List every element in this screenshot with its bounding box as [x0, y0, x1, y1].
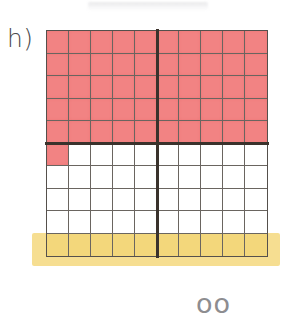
grid-cell-r6-c2 [69, 144, 91, 167]
grid-cell-r5-c10 [245, 121, 267, 144]
grid-cell-r6-c3 [91, 144, 113, 167]
grid-cell-r8-c9 [223, 189, 245, 212]
grid-cell-r10-c8 [201, 234, 223, 257]
grid-cell-r1-c7 [179, 31, 201, 54]
grid-cell-r8-c7 [179, 189, 201, 212]
grid-cell-r7-c5 [135, 166, 157, 189]
clipped-bottom-text: oo [196, 290, 231, 317]
grid-cell-r5-c6 [157, 121, 179, 144]
grid-cell-r6-c4 [113, 144, 135, 167]
grid-cell-r6-c1 [47, 144, 69, 167]
grid-cell-r2-c3 [91, 54, 113, 77]
grid-cell-r3-c9 [223, 76, 245, 99]
grid-cell-r4-c3 [91, 99, 113, 122]
grid-cell-r7-c9 [223, 166, 245, 189]
grid-cell-r2-c4 [113, 54, 135, 77]
grid-cell-r7-c10 [245, 166, 267, 189]
grid-cell-r10-c6 [157, 234, 179, 257]
grid-cell-r6-c5 [135, 144, 157, 167]
grid-cell-r2-c10 [245, 54, 267, 77]
grid-cell-r6-c9 [223, 144, 245, 167]
grid-cell-r3-c10 [245, 76, 267, 99]
grid-cell-r1-c8 [201, 31, 223, 54]
grid-cell-r4-c2 [69, 99, 91, 122]
grid-cell-r7-c3 [91, 166, 113, 189]
grid-cell-r4-c6 [157, 99, 179, 122]
grid-cell-r5-c9 [223, 121, 245, 144]
grid-cell-r10-c5 [135, 234, 157, 257]
grid-cell-r4-c4 [113, 99, 135, 122]
grid-cell-r3-c1 [47, 76, 69, 99]
grid-cell-r10-c2 [69, 234, 91, 257]
grid-cell-r1-c1 [47, 31, 69, 54]
grid-cell-r7-c6 [157, 166, 179, 189]
grid-cell-r1-c2 [69, 31, 91, 54]
grid-cell-r5-c2 [69, 121, 91, 144]
grid-cell-r7-c2 [69, 166, 91, 189]
grid-cell-r2-c7 [179, 54, 201, 77]
grid-cell-r9-c8 [201, 211, 223, 234]
grid-cell-r6-c7 [179, 144, 201, 167]
grid-cell-r7-c7 [179, 166, 201, 189]
grid-cell-r9-c1 [47, 211, 69, 234]
grid-cell-r9-c10 [245, 211, 267, 234]
grid-cell-r2-c6 [157, 54, 179, 77]
grid-cell-r3-c8 [201, 76, 223, 99]
grid-cell-r1-c10 [245, 31, 267, 54]
grid-cell-r9-c5 [135, 211, 157, 234]
grid-cell-r9-c7 [179, 211, 201, 234]
grid-cell-r2-c1 [47, 54, 69, 77]
grid-cell-r1-c5 [135, 31, 157, 54]
grid-cell-r8-c5 [135, 189, 157, 212]
grid-cell-r8-c10 [245, 189, 267, 212]
page-title: h) [7, 26, 34, 51]
grid-cell-r8-c4 [113, 189, 135, 212]
grid-cell-r4-c5 [135, 99, 157, 122]
grid-cell-r4-c1 [47, 99, 69, 122]
grid-cell-r4-c7 [179, 99, 201, 122]
grid-cell-r9-c4 [113, 211, 135, 234]
grid-cell-r5-c4 [113, 121, 135, 144]
grid-cell-r5-c5 [135, 121, 157, 144]
grid-cell-r4-c10 [245, 99, 267, 122]
grid-cell-r9-c2 [69, 211, 91, 234]
grid-cell-r9-c3 [91, 211, 113, 234]
grid-cell-r1-c6 [157, 31, 179, 54]
grid-cell-r10-c9 [223, 234, 245, 257]
grid-cell-r3-c2 [69, 76, 91, 99]
grid-cell-r4-c8 [201, 99, 223, 122]
grid-cell-r2-c8 [201, 54, 223, 77]
grid-cell-r1-c9 [223, 31, 245, 54]
grid-cell-r6-c8 [201, 144, 223, 167]
grid-cell-r3-c4 [113, 76, 135, 99]
grid-cell-r3-c7 [179, 76, 201, 99]
grid-cell-r1-c3 [91, 31, 113, 54]
grid-cell-r8-c1 [47, 189, 69, 212]
grid-cell-r3-c5 [135, 76, 157, 99]
grid-cell-r8-c6 [157, 189, 179, 212]
grid-cell-r1-c4 [113, 31, 135, 54]
grid-cell-r8-c2 [69, 189, 91, 212]
scan-smudge [88, 2, 208, 11]
grid-cell-r3-c6 [157, 76, 179, 99]
grid-cell-r10-c7 [179, 234, 201, 257]
grid-cell-r9-c6 [157, 211, 179, 234]
grid-cell-r8-c3 [91, 189, 113, 212]
grid-cell-r10-c1 [47, 234, 69, 257]
grid-cell-r5-c3 [91, 121, 113, 144]
grid-cell-r2-c9 [223, 54, 245, 77]
hundred-square-grid [46, 30, 268, 257]
grid-cell-r2-c2 [69, 54, 91, 77]
grid-cell-r10-c10 [245, 234, 267, 257]
grid-cell-r10-c4 [113, 234, 135, 257]
grid-cell-r5-c8 [201, 121, 223, 144]
grid-cell-r2-c5 [135, 54, 157, 77]
grid-cell-r8-c8 [201, 189, 223, 212]
grid-cell-r5-c1 [47, 121, 69, 144]
grid-cell-r4-c9 [223, 99, 245, 122]
grid-cell-r7-c8 [201, 166, 223, 189]
grid-cells-container [46, 30, 268, 257]
grid-cell-r7-c4 [113, 166, 135, 189]
grid-cell-r10-c3 [91, 234, 113, 257]
grid-cell-r9-c9 [223, 211, 245, 234]
